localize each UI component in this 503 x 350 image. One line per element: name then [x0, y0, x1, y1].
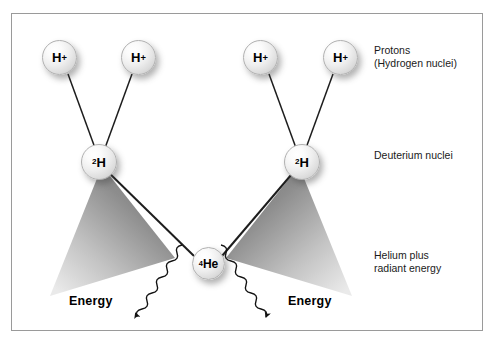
deuteron-left-element: H [97, 155, 106, 170]
bond-lines [68, 74, 333, 148]
bond-proton4-deuteron-right [306, 74, 333, 148]
proton-4: H+ [323, 40, 358, 75]
deuteron-left: 2H [81, 144, 117, 180]
bond-proton1-deuteron-left [68, 74, 95, 148]
bond-proton3-deuteron-right [269, 74, 296, 148]
proton-3: H+ [243, 40, 278, 75]
caption-deuterium: Deuterium nuclei [374, 149, 453, 162]
proton-2: H+ [121, 40, 156, 75]
proton-3-label: H [253, 50, 262, 65]
energy-label-right: Energy [288, 294, 332, 308]
energy-cone-right [226, 166, 352, 296]
helium-nucleus: 4He [192, 247, 225, 280]
proton-1-label: H [52, 50, 61, 65]
proton-1: H+ [42, 40, 77, 75]
caption-protons: Protons (Hydrogen nuclei) [374, 44, 457, 70]
deuteron-right-element: H [300, 155, 309, 170]
bond-proton2-deuteron-left [105, 74, 132, 148]
caption-helium: Helium plus radiant energy [374, 249, 441, 275]
energy-cone-left [50, 166, 175, 296]
helium-element: He [203, 257, 218, 271]
energy-label-left: Energy [69, 294, 113, 308]
deuteron-right: 2H [284, 144, 320, 180]
proton-2-label: H [131, 50, 140, 65]
diagram-canvas: H+ H+ H+ H+ 2H 2H 4He Energy Energy Prot… [0, 0, 503, 350]
proton-4-label: H [333, 50, 342, 65]
